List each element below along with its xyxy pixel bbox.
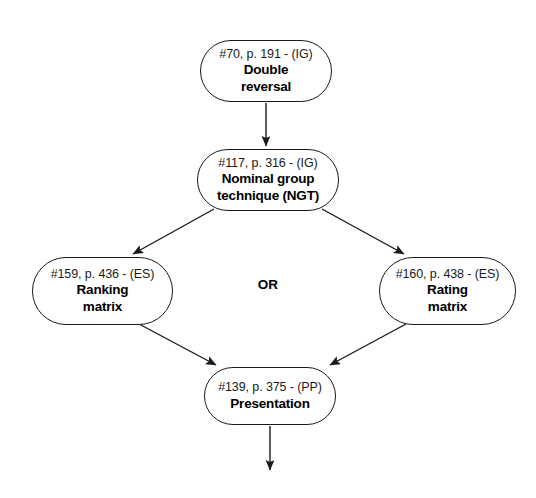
node-label-line: Nominal group bbox=[222, 171, 315, 187]
node-label-line: Ranking bbox=[77, 282, 129, 298]
node-label-line: matrix bbox=[83, 299, 122, 315]
node-id-text: #160, p. 438 - (ES) bbox=[396, 267, 500, 282]
node-id-text: #159, p. 436 - (ES) bbox=[51, 267, 155, 282]
edge-ngt-to-rating-matrix bbox=[322, 209, 404, 254]
edge-rating-matrix-to-presentation bbox=[330, 324, 406, 365]
node-label-line: Rating bbox=[427, 282, 468, 298]
edge-ranking-matrix-to-presentation bbox=[139, 324, 216, 365]
node-label-line: Double bbox=[244, 62, 289, 78]
node-label-line: matrix bbox=[428, 299, 467, 315]
node-id-text: #70, p. 191 - (IG) bbox=[219, 47, 312, 62]
node-rating-matrix[interactable]: #160, p. 438 - (ES) Rating matrix bbox=[379, 257, 516, 325]
node-nominal-group-technique[interactable]: #117, p. 316 - (IG) Nominal group techni… bbox=[197, 149, 339, 211]
edge-ngt-to-ranking-matrix bbox=[133, 209, 214, 254]
node-ranking-matrix[interactable]: #159, p. 436 - (ES) Ranking matrix bbox=[32, 257, 173, 325]
node-id-text: #117, p. 316 - (IG) bbox=[218, 156, 317, 171]
flowchart-canvas: #70, p. 191 - (IG) Double reversal #117,… bbox=[0, 0, 536, 498]
or-connector-label: OR bbox=[236, 277, 300, 292]
node-presentation[interactable]: #139, p. 375 - (PP) Presentation bbox=[204, 367, 336, 425]
node-double-reversal[interactable]: #70, p. 191 - (IG) Double reversal bbox=[200, 40, 332, 102]
node-id-text: #139, p. 375 - (PP) bbox=[218, 380, 322, 395]
node-label-line: Presentation bbox=[230, 396, 309, 412]
node-label-line: reversal bbox=[241, 79, 291, 95]
node-label-line: technique (NGT) bbox=[217, 188, 319, 204]
